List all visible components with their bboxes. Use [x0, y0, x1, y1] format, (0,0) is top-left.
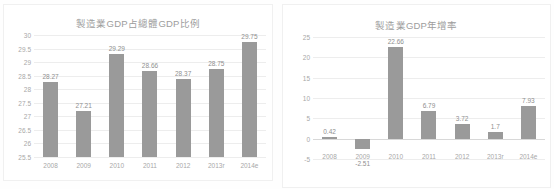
bar-slot: 6.79	[412, 37, 445, 159]
bar-value-label: 28.27	[42, 73, 58, 80]
x-axis-category-label: 2008	[322, 153, 336, 160]
bar-slot: 27.21	[67, 35, 100, 157]
bar-slot: 28.66	[133, 35, 166, 157]
chart-title: 製造業GDP年增率	[283, 18, 550, 32]
bar-value-label: 27.21	[76, 102, 92, 109]
bar-slot: 28.75	[200, 35, 233, 157]
y-axis-tick-label: 26	[24, 140, 31, 147]
bar	[455, 124, 470, 139]
bar-value-label: -2.51	[355, 160, 370, 167]
bar-value-label: 29.29	[109, 45, 125, 52]
x-axis-category-label: 2012	[176, 162, 190, 169]
bar-value-label: 28.37	[175, 70, 191, 77]
y-axis-tick-label: 25.5	[18, 154, 31, 161]
bar-slot: 28.37	[167, 35, 200, 157]
y-axis-tick-label: 5	[306, 115, 310, 122]
bar-slot: 1.7	[479, 37, 512, 159]
y-axis-tick-label: 0	[306, 135, 310, 142]
bar-slot: 22.66	[379, 37, 412, 159]
y-axis-tick-label: 29	[24, 59, 31, 66]
y-axis-tick-labels: 2520151050-5	[285, 37, 310, 159]
bar-value-label: 3.72	[456, 115, 469, 122]
bar-slot: 3.72	[446, 37, 479, 159]
bar-slot: -2.51	[346, 37, 379, 159]
y-axis-tick-label: -5	[304, 156, 310, 163]
bar	[242, 42, 257, 157]
x-axis-category-label: 2010	[110, 162, 124, 169]
bar-value-label: 22.66	[388, 38, 404, 45]
plot-area: 0.42-2.5122.666.793.721.77.93	[313, 37, 545, 159]
x-axis-category-label: 2009	[355, 153, 369, 160]
y-axis-tick-label: 28.5	[18, 72, 31, 79]
y-axis-tick-labels: 3029.52928.52827.52726.52625.5	[6, 35, 31, 157]
gridline	[34, 157, 266, 158]
x-axis-category-label: 2011	[143, 162, 157, 169]
x-axis-category-label: 2014e	[240, 162, 258, 169]
bar-value-label: 28.75	[208, 60, 224, 67]
bar-value-label: 29.75	[241, 33, 257, 40]
bar-series: 0.42-2.5122.666.793.721.77.93	[313, 37, 545, 159]
bar	[43, 82, 58, 157]
chart-panel-gdp-growth: 製造業GDP年增率 2520151050-5 0.42-2.5122.666.7…	[282, 4, 551, 188]
y-axis-tick-label: 25	[303, 34, 310, 41]
y-axis-tick-label: 27	[24, 113, 31, 120]
bar-slot: 29.75	[233, 35, 266, 157]
y-axis-tick-label: 10	[303, 95, 310, 102]
x-axis-category-label: 2011	[422, 153, 436, 160]
bar	[322, 137, 337, 139]
plot-area: 28.2727.2129.2928.6628.3728.7529.75	[34, 35, 266, 157]
bar	[388, 47, 403, 139]
y-axis-tick-label: 26.5	[18, 126, 31, 133]
bar-slot: 28.27	[34, 35, 67, 157]
chart-title: 製造業GDP占總體GDP比例	[4, 16, 272, 30]
x-axis-category-label: 2009	[76, 162, 90, 169]
bar	[176, 79, 191, 157]
y-axis-tick-label: 28	[24, 86, 31, 93]
y-axis-tick-label: 27.5	[18, 99, 31, 106]
y-axis-tick-label: 30	[24, 32, 31, 39]
x-axis-category-label: 2008	[43, 162, 57, 169]
bar	[209, 69, 224, 157]
bar-value-label: 6.79	[423, 102, 436, 109]
bar-value-label: 7.93	[522, 97, 535, 104]
bar	[421, 111, 436, 139]
bar	[142, 71, 157, 157]
chart-pair-figure: 製造業GDP占總體GDP比例 3029.52928.52827.52726.52…	[0, 0, 554, 189]
bar	[355, 139, 370, 149]
y-axis-tick-label: 15	[303, 74, 310, 81]
x-axis-category-label: 2010	[389, 153, 403, 160]
bar-value-label: 0.42	[323, 128, 336, 135]
bar-series: 28.2727.2129.2928.6628.3728.7529.75	[34, 35, 266, 157]
x-axis-category-label: 2013r	[487, 153, 504, 160]
y-axis-tick-label: 29.5	[18, 45, 31, 52]
x-axis-category-label: 2014e	[519, 153, 537, 160]
chart-panel-gdp-share: 製造業GDP占總體GDP比例 3029.52928.52827.52726.52…	[3, 4, 273, 181]
x-axis-category-label: 2013r	[208, 162, 225, 169]
y-axis-tick-label: 20	[303, 54, 310, 61]
bar	[109, 54, 124, 157]
bar-slot: 0.42	[313, 37, 346, 159]
bar-value-label: 1.7	[491, 123, 500, 130]
x-axis-category-label: 2012	[455, 153, 469, 160]
bar	[521, 106, 536, 138]
bar-slot: 29.29	[100, 35, 133, 157]
bar-value-label: 28.66	[142, 62, 158, 69]
bar-slot: 7.93	[512, 37, 545, 159]
bar	[488, 132, 503, 139]
bar	[76, 111, 91, 157]
